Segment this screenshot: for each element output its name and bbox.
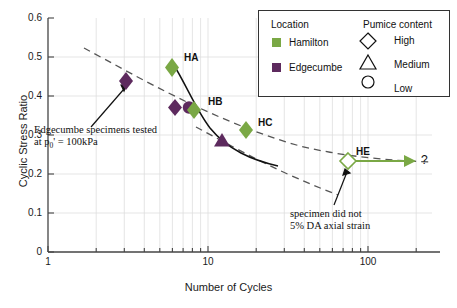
point-label-he: HE (356, 146, 370, 157)
legend-swatch-hamilton (272, 38, 281, 47)
point-label-hb: HB (208, 96, 222, 107)
x-axis-title: Number of Cycles (0, 281, 457, 293)
legend-header-location: Location (271, 19, 309, 30)
annotation-edgecumbe-line2: at p0' = 100kPa (34, 136, 157, 152)
annotation-he-line1: specimen did not (290, 208, 370, 220)
x-tick-label-1: 1 (28, 256, 68, 267)
annotation-he: specimen did not 5% DA axial strain (290, 208, 370, 232)
circle-icon (362, 76, 374, 88)
x-tick-label-100: 100 (348, 256, 388, 267)
annotation-p0-prefix: at p (34, 136, 49, 147)
legend-swatch-edgecumbe (272, 63, 281, 72)
legend-label-hamilton: Hamilton (289, 37, 328, 48)
legend-label-high: High (394, 35, 415, 46)
point-label-hc: HC (258, 117, 272, 128)
y-tick-label-0.5: 0.5 (8, 51, 42, 62)
runout-question-mark: ? (421, 153, 428, 167)
diamond-icon (360, 33, 376, 49)
x-tick-label-10: 10 (188, 256, 228, 267)
annotation-edgecumbe-line1: Edgecumbe specimens tested (34, 124, 157, 136)
legend-label-medium: Medium (394, 59, 430, 70)
annotation-he-line2: 5% DA axial strain (290, 220, 370, 232)
y-axis-title: Cyclic Stress Ratio (17, 66, 29, 216)
point-label-ha: HA (184, 52, 198, 63)
legend-header-pumice: Pumice content (363, 19, 432, 30)
chart-figure: 0.6 0.5 0.4 0.3 0.2 0.1 0 1 10 100 Numbe… (0, 0, 457, 308)
y-tick-label-0.6: 0.6 (8, 12, 42, 23)
chart-legend: Location Pumice content Hamilton Edgecum… (258, 10, 450, 97)
triangle-icon (360, 55, 376, 69)
annotation-edgecumbe: Edgecumbe specimens tested at p0' = 100k… (34, 124, 157, 152)
legend-label-low: Low (394, 83, 412, 94)
annotation-p0-suffix: ' = 100kPa (53, 136, 98, 147)
legend-label-edgecumbe: Edgecumbe (289, 62, 342, 73)
legend-marker-shapes (359, 33, 383, 93)
